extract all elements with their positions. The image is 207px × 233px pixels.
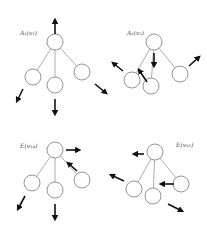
- tree-edge: [37, 49, 50, 70]
- panel-top-right: A₁(v₂): [113, 29, 199, 94]
- root-node: [146, 34, 162, 50]
- child-node: [74, 172, 90, 188]
- tree-edge: [138, 159, 151, 182]
- child-node: [74, 64, 90, 80]
- force-arrow-icon: [17, 89, 23, 101]
- tree-edge: [153, 160, 154, 188]
- tree-edge: [60, 156, 76, 174]
- child-node: [47, 77, 63, 93]
- force-arrow-icon: [95, 84, 106, 93]
- tree-diagram: A₁(v₁)A₁(v₂)E(v₁₄)E(v₁₆): [0, 0, 207, 233]
- child-node: [173, 176, 189, 192]
- force-arrow-icon: [189, 57, 199, 66]
- child-node: [25, 69, 41, 85]
- child-node: [172, 66, 188, 82]
- tree-edge: [37, 157, 51, 177]
- root-node: [47, 142, 63, 158]
- root-node: [47, 34, 63, 50]
- child-node: [145, 188, 161, 204]
- child-node: [126, 181, 142, 197]
- child-node: [47, 182, 63, 198]
- panel-bottom-left: E(v₁₄): [18, 142, 90, 219]
- force-arrow-icon: [113, 63, 123, 71]
- tree-edge: [160, 158, 176, 178]
- panel-label: A₁(v₁): [19, 29, 38, 36]
- tree-edge: [60, 48, 76, 66]
- panel-label: E(v₁₆): [175, 141, 194, 148]
- panel-bottom-right: E(v₁₆): [111, 141, 194, 211]
- panel-label: A₁(v₂): [126, 29, 145, 36]
- panel-label: E(v₁₄): [19, 142, 38, 149]
- tree-edge: [152, 50, 154, 78]
- force-arrow-icon: [111, 175, 124, 181]
- child-node: [24, 175, 40, 191]
- child-node: [124, 72, 140, 88]
- tree-edge: [136, 49, 150, 73]
- force-arrow-icon: [18, 196, 25, 209]
- tree-edge: [159, 48, 175, 68]
- root-node: [147, 144, 163, 160]
- force-arrow-icon: [168, 204, 182, 211]
- panel-top-left: A₁(v₁): [17, 20, 106, 114]
